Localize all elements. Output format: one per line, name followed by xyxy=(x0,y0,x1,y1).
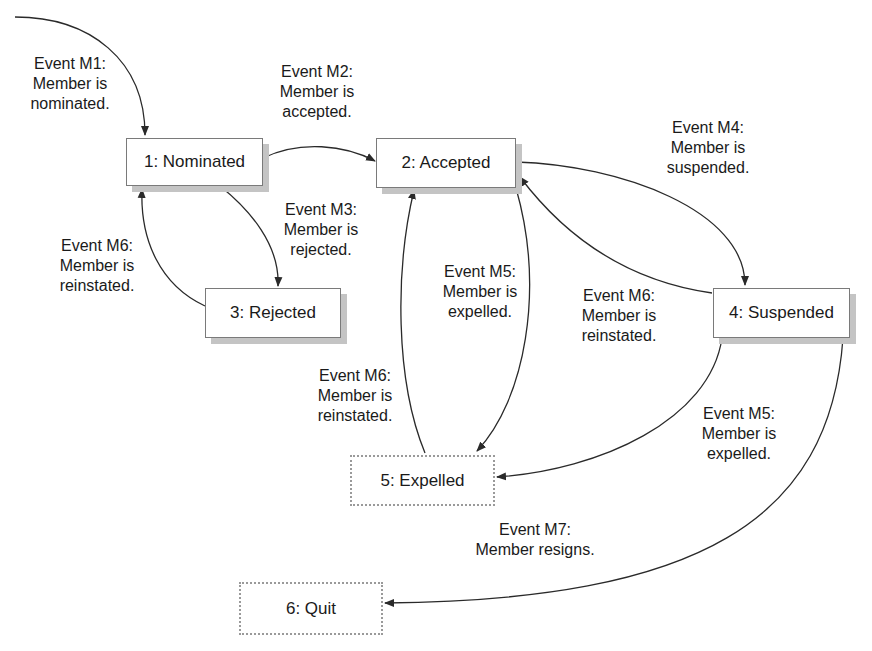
state-nominated: 1: Nominated xyxy=(126,138,263,186)
state-diagram: 1: Nominated 2: Accepted 3: Rejected 4: … xyxy=(0,0,872,651)
state-label: 3: Rejected xyxy=(230,303,316,323)
label-m7: Event M7: Member resigns. xyxy=(455,520,615,560)
state-label: 1: Nominated xyxy=(144,152,245,172)
label-m6-rejected: Event M6: Member is reinstated. xyxy=(42,236,152,296)
state-expelled: 5: Expelled xyxy=(350,455,495,506)
label-m5-accepted: Event M5: Member is expelled. xyxy=(425,262,535,322)
state-label: 4: Suspended xyxy=(729,303,834,323)
label-m6-suspended: Event M6: Member is reinstated. xyxy=(564,286,674,346)
arrow-m4-accepted-to-suspended xyxy=(516,162,745,285)
label-m5-suspended: Event M5: Member is expelled. xyxy=(684,404,794,464)
state-label: 6: Quit xyxy=(286,599,336,619)
state-suspended: 4: Suspended xyxy=(713,288,850,338)
label-m2: Event M2: Member is accepted. xyxy=(262,62,372,122)
label-m1: Event M1: Member is nominated. xyxy=(10,54,130,114)
arrow-m2-nominated-to-accepted xyxy=(263,147,375,161)
label-m6-expelled: Event M6: Member is reinstated. xyxy=(300,366,410,426)
state-label: 5: Expelled xyxy=(380,471,464,491)
arrow-m6-suspended-to-accepted xyxy=(520,177,712,293)
state-label: 2: Accepted xyxy=(402,153,491,173)
state-quit: 6: Quit xyxy=(239,582,383,635)
state-accepted: 2: Accepted xyxy=(376,138,516,188)
label-m4: Event M4: Member is suspended. xyxy=(648,118,768,178)
state-rejected: 3: Rejected xyxy=(205,288,341,338)
label-m3: Event M3: Member is rejected. xyxy=(266,200,376,260)
